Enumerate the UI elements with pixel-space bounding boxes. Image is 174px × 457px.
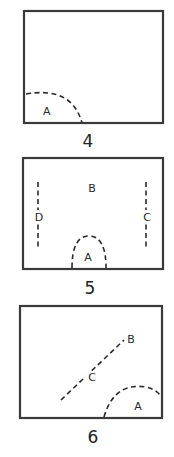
diagram-canvas: A 4 B D C A 5 B C A 6 [0, 0, 174, 457]
figure-5-number: 5 [85, 278, 96, 298]
figure-5-label-b: B [88, 182, 96, 195]
figure-5: B D C A 5 [23, 158, 163, 298]
figure-4-number: 4 [83, 131, 94, 151]
figure-6-arc-a [104, 386, 161, 417]
figure-6: B C A 6 [20, 306, 162, 447]
figure-6-line-cb [61, 340, 124, 400]
figure-4-arc-a [26, 93, 82, 123]
figure-5-label-a: A [84, 251, 92, 264]
figure-4-label-a: A [43, 105, 51, 118]
figure-6-label-b: B [127, 333, 135, 346]
figure-4: A 4 [24, 11, 163, 151]
figure-6-number: 6 [88, 427, 99, 447]
figure-5-label-c: C [143, 211, 151, 224]
figure-6-label-c: C [88, 371, 96, 384]
figure-5-label-d: D [35, 211, 43, 224]
figure-6-label-a: A [134, 400, 142, 413]
